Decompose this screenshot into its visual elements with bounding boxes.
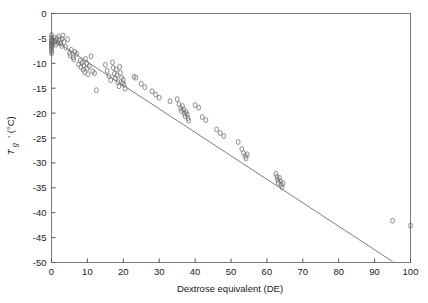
regression-line xyxy=(52,38,393,261)
data-point xyxy=(119,70,123,75)
data-point xyxy=(143,85,147,90)
y-tick-label: -15 xyxy=(33,83,47,94)
fit-line-segment xyxy=(52,38,393,261)
y-tick-label: -30 xyxy=(33,157,47,168)
data-point xyxy=(94,88,98,93)
x-axis-title: Dextrose equivalent (DE) xyxy=(177,283,283,294)
data-point xyxy=(168,99,172,104)
x-tick-label: 30 xyxy=(154,266,165,277)
data-point xyxy=(111,60,115,65)
y-tick-label: 0 xyxy=(41,8,46,19)
y-axis-title-subscript: g xyxy=(11,143,19,147)
data-point xyxy=(86,72,90,77)
x-tick-label: 100 xyxy=(403,266,419,277)
data-point xyxy=(222,134,226,139)
data-point xyxy=(118,64,122,69)
y-axis-tick-labels: 0-5-10-15-20-25-30-35-40-45-50 xyxy=(33,8,47,268)
x-tick-label: 60 xyxy=(262,266,273,277)
y-axis-title-units: ' (°C) xyxy=(5,116,16,137)
x-tick-label: 90 xyxy=(369,266,380,277)
data-point xyxy=(274,171,278,176)
data-point xyxy=(175,97,179,102)
data-point xyxy=(157,95,161,100)
data-point xyxy=(105,68,109,73)
y-tick-label: -40 xyxy=(33,207,47,218)
y-tick-label: -50 xyxy=(33,257,47,268)
data-point xyxy=(150,89,154,94)
data-point xyxy=(218,131,222,136)
data-point xyxy=(204,118,208,123)
x-tick-label: 50 xyxy=(226,266,237,277)
y-tick-label: -20 xyxy=(33,108,47,119)
x-axis-ticks xyxy=(52,259,411,263)
data-point xyxy=(139,81,143,86)
x-tick-label: 10 xyxy=(82,266,93,277)
y-tick-label: -35 xyxy=(33,182,47,193)
x-tick-label: 80 xyxy=(333,266,344,277)
data-point xyxy=(391,218,395,223)
y-axis-title: T g ' (°C) xyxy=(5,116,19,155)
figure-container: 0102030405060708090100 0-5-10-15-20-25-3… xyxy=(0,0,428,303)
x-tick-label: 70 xyxy=(298,266,309,277)
data-point xyxy=(193,103,197,108)
y-tick-label: -5 xyxy=(38,33,46,44)
x-axis-tick-labels: 0102030405060708090100 xyxy=(49,266,419,277)
x-tick-label: 40 xyxy=(190,266,201,277)
data-point xyxy=(89,54,93,59)
data-point xyxy=(66,37,70,42)
data-point xyxy=(215,127,219,132)
x-tick-label: 20 xyxy=(118,266,129,277)
data-point xyxy=(200,115,204,120)
plot-frame xyxy=(52,14,411,263)
data-point xyxy=(236,139,240,144)
data-point xyxy=(61,33,65,38)
y-tick-label: -25 xyxy=(33,133,47,144)
y-axis-title-main: T xyxy=(5,148,16,155)
data-point xyxy=(154,92,158,97)
data-points xyxy=(50,32,413,228)
y-tick-label: -10 xyxy=(33,58,47,69)
data-point xyxy=(197,105,201,110)
scatter-plot: 0102030405060708090100 0-5-10-15-20-25-3… xyxy=(0,0,428,303)
data-point xyxy=(103,62,107,67)
x-tick-label: 0 xyxy=(49,266,54,277)
data-point xyxy=(109,78,113,83)
y-tick-label: -45 xyxy=(33,232,47,243)
